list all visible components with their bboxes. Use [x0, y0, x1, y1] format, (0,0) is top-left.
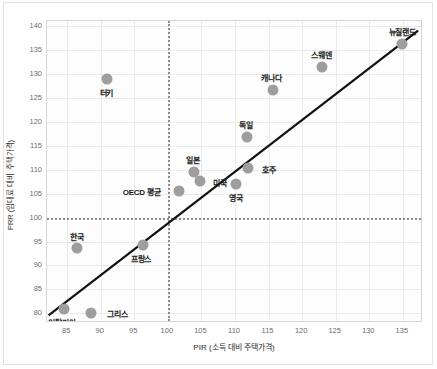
data-point-marker[interactable] — [242, 163, 253, 174]
data-point-label: 영국 — [229, 191, 243, 202]
data-point-label: 호주 — [262, 164, 276, 175]
data-point-label: 이탈리아 — [48, 316, 75, 322]
data-point-marker[interactable] — [102, 74, 113, 85]
x-axis-tick-label: 130 — [362, 326, 375, 335]
data-point-label: 그리스 — [107, 307, 127, 318]
x-axis-tick-label: 105 — [194, 326, 207, 335]
data-point-label: 스웨덴 — [311, 49, 331, 60]
x-axis-tick-label: 90 — [96, 326, 104, 335]
data-point-label: 독일 — [239, 118, 253, 129]
data-point-label: 프랑스 — [131, 253, 151, 264]
data-point-label: 캐나다 — [261, 71, 281, 82]
data-point-label: 터키 — [100, 87, 114, 98]
x-axis-tick-label: 115 — [262, 326, 274, 335]
gridline-horizontal — [47, 289, 421, 290]
x-axis-tick-label: 100 — [161, 326, 174, 335]
data-point-label: OECD 평균 — [123, 186, 161, 197]
gridline-vertical — [302, 21, 303, 321]
reference-line-vertical — [168, 21, 170, 321]
gridline-horizontal — [47, 146, 421, 147]
scatter-chart-figure: 80859095100105110115120125130135140 PRR … — [0, 0, 437, 369]
reference-line-horizontal — [47, 218, 421, 220]
gridline-horizontal — [47, 50, 421, 51]
x-axis-tick-label: 85 — [62, 326, 70, 335]
data-point-label: 한국 — [70, 230, 84, 241]
data-point-marker[interactable] — [230, 178, 241, 189]
data-point-marker[interactable] — [71, 242, 82, 253]
gridline-vertical — [403, 21, 404, 321]
gridline-horizontal — [47, 313, 421, 314]
x-axis-tick-label: 125 — [328, 326, 341, 335]
gridline-vertical — [235, 21, 236, 321]
data-point-marker[interactable] — [195, 176, 206, 187]
gridline-vertical — [101, 21, 102, 321]
x-axis-ticks: 859095100105110115120125130135 — [46, 326, 422, 340]
gridline-horizontal — [47, 26, 421, 27]
data-point-marker[interactable] — [267, 84, 278, 95]
x-axis-tick-label: 110 — [228, 326, 240, 335]
data-point-label: 뉴질랜드 — [389, 26, 416, 37]
plot-area: 이탈리아그리스한국프랑스터키OECD 평균일본미국영국호주독일캐나다스웨덴뉴질랜… — [46, 20, 422, 322]
data-point-marker[interactable] — [242, 131, 253, 142]
data-point-marker[interactable] — [397, 39, 408, 50]
gridline-vertical — [67, 21, 68, 321]
data-point-marker[interactable] — [138, 240, 149, 251]
x-axis-tick-label: 120 — [295, 326, 308, 335]
gridline-vertical — [336, 21, 337, 321]
trend-line — [47, 21, 421, 321]
data-point-marker[interactable] — [317, 62, 328, 73]
data-point-marker[interactable] — [58, 303, 69, 314]
gridline-vertical — [134, 21, 135, 321]
x-axis-tick-label: 135 — [396, 326, 409, 335]
data-point-marker[interactable] — [86, 307, 97, 318]
data-point-label: 미국 — [213, 177, 227, 188]
gridline-horizontal — [47, 170, 421, 171]
gridline-horizontal — [47, 265, 421, 266]
y-axis-title: PRR (임대료 대비 주택가격) — [4, 34, 18, 336]
gridline-vertical — [369, 21, 370, 321]
x-axis-tick-label: 95 — [129, 326, 137, 335]
data-point-marker[interactable] — [173, 186, 184, 197]
gridline-vertical — [201, 21, 202, 321]
gridline-horizontal — [47, 242, 421, 243]
y-axis-tick-label: 140 — [2, 20, 42, 29]
data-point-label: 일본 — [186, 153, 200, 164]
x-axis-title: PIR (소득 대비 주택가격) — [46, 341, 422, 352]
gridline-horizontal — [47, 122, 421, 123]
